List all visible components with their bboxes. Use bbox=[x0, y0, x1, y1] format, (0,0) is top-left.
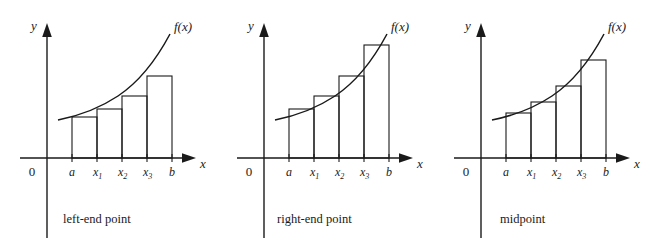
riemann-rectangles bbox=[72, 76, 172, 158]
function-label: f(x) bbox=[174, 19, 192, 34]
y-axis-arrow-icon bbox=[476, 23, 486, 37]
tick-label-x1: x1 bbox=[526, 165, 536, 181]
function-curve bbox=[275, 34, 387, 120]
rect-2 bbox=[531, 102, 556, 158]
function-curve bbox=[492, 34, 604, 120]
tick-label-x1-sub: 1 bbox=[98, 172, 102, 181]
y-axis-label: y bbox=[246, 18, 254, 33]
x-axis-label: x bbox=[416, 156, 423, 171]
rect-4 bbox=[581, 60, 606, 158]
x-axis-arrow-icon bbox=[399, 153, 413, 163]
tick-label-x3: x3 bbox=[142, 165, 152, 181]
panel-caption: left-end point bbox=[63, 212, 131, 226]
tick-label-a: a bbox=[69, 165, 75, 179]
tick-label-a: a bbox=[503, 165, 509, 179]
tick-label-x2: x2 bbox=[334, 165, 344, 181]
tick-label-x3: x3 bbox=[576, 165, 586, 181]
x-axis-arrow-icon bbox=[616, 153, 630, 163]
x-axis-label: x bbox=[199, 156, 206, 171]
rect-4 bbox=[364, 45, 389, 158]
x-axis-arrow-icon bbox=[182, 153, 196, 163]
y-axis-label: y bbox=[29, 18, 37, 33]
tick-label-x1: x1 bbox=[92, 165, 102, 181]
tick-label-x3-sub: 3 bbox=[364, 172, 369, 181]
riemann-sum-figure: y x f(x) 0 bbox=[0, 0, 650, 244]
tick-label-b: b bbox=[603, 165, 609, 179]
function-label: f(x) bbox=[608, 19, 626, 34]
tick-label-x2-sub: 2 bbox=[340, 172, 344, 181]
y-axis-arrow-icon bbox=[259, 23, 269, 37]
riemann-rectangles bbox=[506, 60, 606, 158]
tick-label-x2-sub: 2 bbox=[123, 172, 127, 181]
x-axis-label: x bbox=[633, 156, 640, 171]
panel-right-end-point: y x f(x) 0 a x1 bbox=[237, 18, 423, 238]
rect-3 bbox=[339, 76, 364, 158]
tick-label-x1-sub: 1 bbox=[532, 172, 536, 181]
tick-label-b: b bbox=[386, 165, 392, 179]
rect-3 bbox=[556, 86, 581, 158]
tick-label-x3: x3 bbox=[359, 165, 369, 181]
tick-label-x3-sub: 3 bbox=[147, 172, 152, 181]
rect-3 bbox=[122, 96, 147, 158]
origin-label: 0 bbox=[246, 164, 253, 179]
origin-label: 0 bbox=[29, 164, 36, 179]
tick-label-a: a bbox=[286, 165, 292, 179]
rect-4 bbox=[147, 76, 172, 158]
riemann-rectangles bbox=[289, 45, 389, 158]
rect-2 bbox=[97, 109, 122, 158]
y-axis-label: y bbox=[463, 18, 471, 33]
tick-label-x1: x1 bbox=[309, 165, 319, 181]
tick-label-x2: x2 bbox=[551, 165, 561, 181]
panel-left-end-point: y x f(x) 0 bbox=[20, 18, 206, 238]
panel-caption: right-end point bbox=[277, 212, 352, 226]
tick-label-x3-sub: 3 bbox=[581, 172, 586, 181]
rect-1 bbox=[72, 117, 97, 158]
panel-midpoint: y x f(x) 0 a x1 bbox=[454, 18, 640, 238]
tick-label-x2-sub: 2 bbox=[557, 172, 561, 181]
panel-caption: midpoint bbox=[500, 212, 546, 226]
function-label: f(x) bbox=[391, 19, 409, 34]
function-curve bbox=[58, 34, 170, 120]
rect-1 bbox=[506, 113, 531, 158]
tick-label-x1-sub: 1 bbox=[315, 172, 319, 181]
tick-label-x2: x2 bbox=[117, 165, 127, 181]
origin-label: 0 bbox=[463, 164, 470, 179]
y-axis-arrow-icon bbox=[42, 23, 52, 37]
tick-label-b: b bbox=[169, 165, 175, 179]
figure-canvas: y x f(x) 0 bbox=[0, 0, 650, 244]
